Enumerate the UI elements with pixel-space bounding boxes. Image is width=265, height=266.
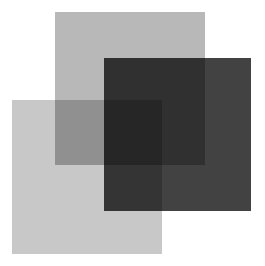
square-bottom-light-gray — [12, 100, 162, 254]
overlapping-squares-diagram — [0, 0, 265, 266]
